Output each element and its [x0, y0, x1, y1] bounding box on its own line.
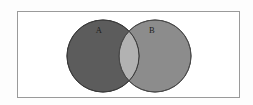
venn-diagram-figure: A B: [0, 0, 253, 105]
set-a-label: A: [96, 25, 103, 35]
set-b-label: B: [149, 25, 155, 35]
venn-diagram-canvas: A B: [0, 0, 253, 105]
